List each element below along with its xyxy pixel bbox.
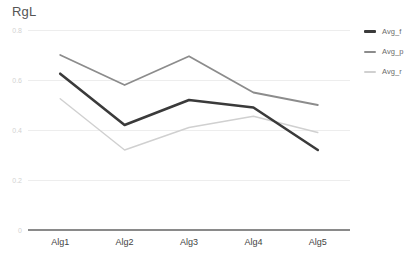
x-axis-line xyxy=(28,30,350,230)
legend-item-avg_r[interactable]: Avg_r xyxy=(364,67,404,76)
legend-item-avg_p[interactable]: Avg_p xyxy=(364,47,404,56)
x-tick-label-alg1: Alg1 xyxy=(30,237,90,247)
legend-label: Avg_p xyxy=(382,47,404,56)
chart-container: RgL 0.80.60.40.20 Alg1Alg2Alg3Alg4Alg5 A… xyxy=(0,0,413,260)
x-tick-label-alg3: Alg3 xyxy=(159,237,219,247)
y-tick-label: 0.2 xyxy=(0,177,22,184)
chart-legend: Avg_fAvg_pAvg_r xyxy=(364,27,404,76)
chart-title: RgL xyxy=(12,4,36,19)
legend-item-avg_f[interactable]: Avg_f xyxy=(364,27,404,36)
legend-swatch-icon xyxy=(364,30,376,33)
legend-label: Avg_f xyxy=(382,27,402,36)
legend-label: Avg_r xyxy=(382,67,402,76)
y-tick-label: 0 xyxy=(0,227,22,234)
y-tick-label: 0.6 xyxy=(0,77,22,84)
legend-swatch-icon xyxy=(364,71,376,73)
legend-swatch-icon xyxy=(364,51,376,53)
plot-area xyxy=(28,30,350,230)
y-tick-label: 0.8 xyxy=(0,27,22,34)
x-tick-label-alg4: Alg4 xyxy=(223,237,283,247)
x-tick-label-alg5: Alg5 xyxy=(288,237,348,247)
x-tick-label-alg2: Alg2 xyxy=(95,237,155,247)
y-tick-label: 0.4 xyxy=(0,127,22,134)
